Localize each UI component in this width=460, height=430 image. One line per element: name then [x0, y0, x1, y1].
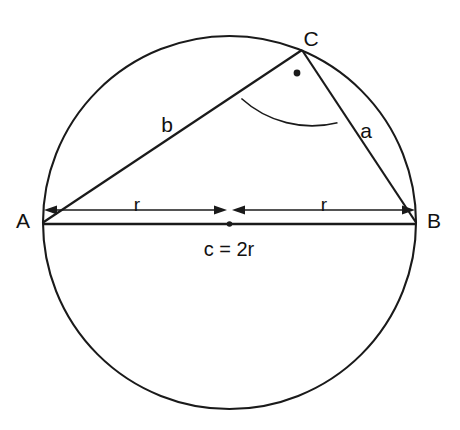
- arrowhead-left-outward-icon: [44, 206, 57, 215]
- dimension-label-right-radius: r: [321, 194, 328, 215]
- thales-circle-diagram: A B C b a r r c = 2r: [0, 0, 460, 430]
- dimension-label-left-radius: r: [134, 194, 141, 215]
- vertex-label-b: B: [427, 209, 441, 232]
- vertex-label-c: C: [303, 27, 318, 50]
- triangle-side-b: [43, 50, 302, 223]
- angle-arc-at-c: [241, 99, 337, 126]
- diagram-canvas: A B C b a r r c = 2r: [0, 0, 460, 430]
- arrowhead-left-inward-icon: [214, 206, 227, 215]
- side-label-b: b: [161, 113, 173, 136]
- center-dot-icon: [227, 221, 233, 227]
- vertex-label-a: A: [16, 209, 30, 232]
- triangle-side-a: [302, 50, 416, 223]
- side-label-a: a: [360, 119, 372, 142]
- diameter-equation-label: c = 2r: [204, 238, 255, 260]
- arrowhead-right-inward-icon: [232, 206, 245, 215]
- right-angle-dot-icon: [294, 70, 301, 77]
